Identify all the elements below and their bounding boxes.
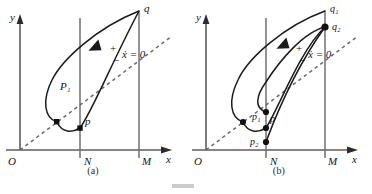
trajectory-arc-left: [243, 122, 266, 131]
curve-label-P1: P₁: [59, 80, 71, 92]
x-axis: [6, 146, 172, 153]
nullcline-sign-plus: +: [110, 42, 116, 54]
x-axis-label: x: [165, 153, 171, 165]
panel-b-caption: (b): [186, 165, 372, 176]
nullcline-dashed-line: [20, 36, 172, 150]
point-label-q: q: [144, 2, 150, 14]
trajectory-arc-pq: [57, 122, 80, 131]
point-marker-left: [54, 119, 59, 124]
nullcline-label: ẋ = 0: [121, 48, 146, 60]
point-label-p: p: [84, 115, 91, 127]
nullcline-sign-minus: −: [299, 54, 305, 66]
direction-arrowhead: [275, 37, 289, 49]
y-axis: [17, 14, 24, 150]
y-axis: [203, 14, 210, 150]
panel-b: y x O N M p₁ p p₂ q₁ q₂ + − ẋ = 0 (b): [186, 0, 372, 194]
x-axis-label: x: [351, 153, 357, 165]
point-label-q2: q₂: [332, 21, 341, 32]
point-marker-p: [263, 125, 269, 131]
x-axis: [192, 146, 358, 153]
panel-a: y x O N M p q P₁ + − ẋ = 0 (a): [0, 0, 186, 194]
point-marker-left: [240, 119, 246, 125]
direction-arrowhead: [87, 39, 101, 51]
nullcline-dashed-line: [206, 36, 358, 150]
point-label-p2: p₂: [249, 136, 259, 147]
nullcline-sign-plus: +: [296, 42, 302, 54]
y-axis-label: y: [9, 11, 15, 23]
point-label-p: p: [269, 113, 275, 124]
y-axis-label: y: [195, 11, 201, 23]
nullcline-label: ẋ = 0: [307, 48, 332, 60]
point-label-q1: q₁: [330, 3, 338, 14]
trajectory-middle: [258, 27, 325, 112]
point-marker-p1: [263, 109, 269, 115]
figure-phase-plane: y x O N M p q P₁ + − ẋ = 0 (a): [0, 0, 372, 194]
cropped-figure-caption-fragment: [172, 184, 194, 188]
nullcline-sign-minus: −: [113, 54, 119, 66]
point-marker-p2: [263, 139, 269, 145]
point-label-p1: p₁: [251, 111, 260, 122]
panel-a-caption: (a): [0, 165, 186, 176]
trajectory-inner: [80, 11, 139, 128]
point-marker-q2: [321, 23, 328, 30]
point-marker-p: [77, 125, 82, 130]
